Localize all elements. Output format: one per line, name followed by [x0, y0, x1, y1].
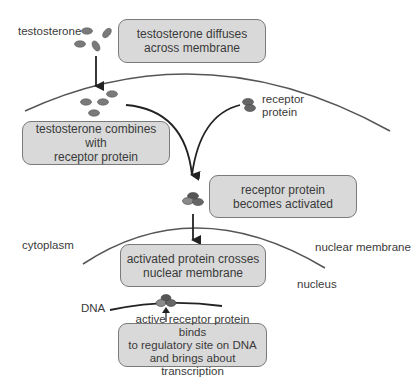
step-5-line-3: and brings about transcription [123, 352, 262, 378]
step-3-line-1: receptor protein [233, 183, 333, 197]
step-2-line-2: receptor protein [27, 150, 165, 164]
step-5-line-2: to regulatory site on DNA [123, 339, 262, 352]
step-1-line-2: across membrane [137, 41, 248, 55]
step-4-line-2: nuclear membrane [127, 266, 260, 280]
nuclear-membrane-label: nuclear membrane [315, 241, 411, 254]
dna-bound-receptor [156, 295, 176, 307]
step-4-line-1: activated protein crosses [127, 252, 260, 266]
testosterone-molecules-inside [81, 91, 118, 116]
step-box-3: receptor protein becomes activated [209, 175, 357, 218]
receptor-protein-molecule [243, 99, 256, 112]
receptor-label-line-2: protein [262, 106, 304, 119]
step-1-line-1: testosterone diffuses [137, 27, 248, 41]
step-box-5: active receptor protein binds to regulat… [118, 323, 267, 367]
step-box-1: testosterone diffuses across membrane [118, 19, 266, 63]
receptor-label-line-1: receptor [262, 93, 304, 106]
step-5-line-1: active receptor protein binds [123, 313, 262, 339]
step-box-4: activated protein crosses nuclear membra… [120, 244, 266, 287]
receptor-protein-label: receptor protein [262, 93, 304, 119]
step-2-line-1: testosterone combines with [27, 122, 165, 150]
testosterone-label: testosterone [18, 25, 81, 38]
step-3-line-2: becomes activated [233, 197, 333, 211]
dna-label: DNA [81, 302, 105, 315]
step-box-2: testosterone combines with receptor prot… [22, 121, 170, 165]
nucleus-label: nucleus [297, 278, 337, 291]
cytoplasm-label: cytoplasm [22, 239, 74, 252]
receptor-to-complex-arrow [192, 105, 240, 175]
activated-complex-molecule [183, 193, 204, 206]
